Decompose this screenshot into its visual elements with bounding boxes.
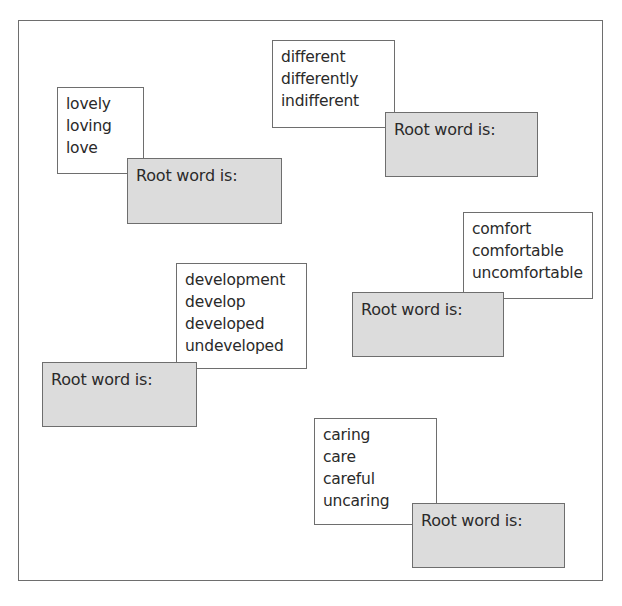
word-item: undeveloped bbox=[185, 335, 306, 357]
root-word-label: Root word is: bbox=[51, 370, 152, 389]
word-item: differently bbox=[281, 68, 394, 90]
word-item: indifferent bbox=[281, 90, 394, 112]
word-item: develop bbox=[185, 291, 306, 313]
word-item: love bbox=[66, 137, 143, 159]
root-word-answer-box-comfort[interactable]: Root word is: bbox=[352, 292, 504, 357]
word-item: careful bbox=[323, 468, 436, 490]
word-item: development bbox=[185, 269, 306, 291]
root-word-label: Root word is: bbox=[136, 166, 237, 185]
word-item: uncomfortable bbox=[472, 262, 592, 284]
root-word-label: Root word is: bbox=[421, 511, 522, 530]
root-word-answer-box-differ[interactable]: Root word is: bbox=[385, 112, 538, 177]
word-item: lovely bbox=[66, 93, 143, 115]
word-family-box-develop: development develop developed undevelope… bbox=[176, 263, 307, 369]
word-item: comfort bbox=[472, 218, 592, 240]
root-word-label: Root word is: bbox=[361, 300, 462, 319]
word-family-box-differ: different differently indifferent bbox=[272, 40, 395, 128]
word-item: caring bbox=[323, 424, 436, 446]
word-family-box-comfort: comfort comfortable uncomfortable bbox=[463, 212, 593, 299]
word-item: comfortable bbox=[472, 240, 592, 262]
root-word-answer-box-love[interactable]: Root word is: bbox=[127, 158, 282, 224]
word-item: care bbox=[323, 446, 436, 468]
root-word-answer-box-care[interactable]: Root word is: bbox=[412, 503, 565, 568]
root-word-label: Root word is: bbox=[394, 120, 495, 139]
word-item: different bbox=[281, 46, 394, 68]
root-word-answer-box-develop[interactable]: Root word is: bbox=[42, 362, 197, 427]
word-item: developed bbox=[185, 313, 306, 335]
word-item: loving bbox=[66, 115, 143, 137]
